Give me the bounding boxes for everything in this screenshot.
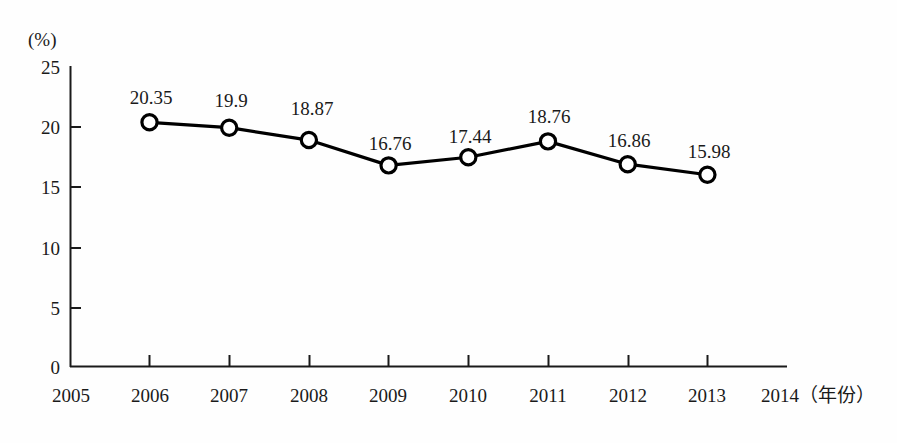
data-point-marker-2010 — [461, 150, 476, 165]
x-axis-ticks — [150, 355, 708, 366]
plot-area — [0, 0, 897, 443]
data-point-marker-2012 — [620, 157, 635, 172]
data-point-marker-2009 — [381, 158, 396, 173]
data-point-marker-2006 — [142, 115, 157, 130]
data-point-marker-2011 — [540, 134, 555, 149]
y-axis-ticks — [70, 127, 81, 308]
data-point-marker-2007 — [222, 120, 237, 135]
data-point-marker-2008 — [301, 132, 316, 147]
data-point-marker-2013 — [700, 167, 715, 182]
series-markers — [142, 115, 715, 183]
line-chart: (%) 25 20 15 10 5 0 2005 2006 2007 2008 … — [0, 0, 897, 443]
